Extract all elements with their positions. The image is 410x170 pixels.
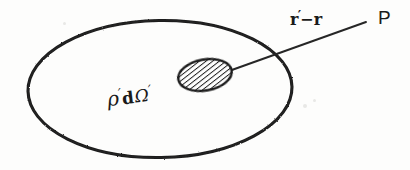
figure-canvas: r′−r P ρ′dΩ′: [0, 0, 410, 170]
vector-r-symbol: r: [314, 10, 323, 29]
diagram-svg: [0, 0, 410, 170]
source-element-label: ρ′dΩ′: [106, 83, 153, 110]
separation-vector-label: r′−r: [290, 9, 322, 28]
charge-distribution-boundary: [27, 18, 293, 160]
vector-minus-sign: −: [300, 10, 314, 29]
field-point-label: P: [378, 8, 391, 27]
hatched-volume-element: [176, 55, 235, 95]
differential-d-symbol: d: [121, 87, 135, 108]
